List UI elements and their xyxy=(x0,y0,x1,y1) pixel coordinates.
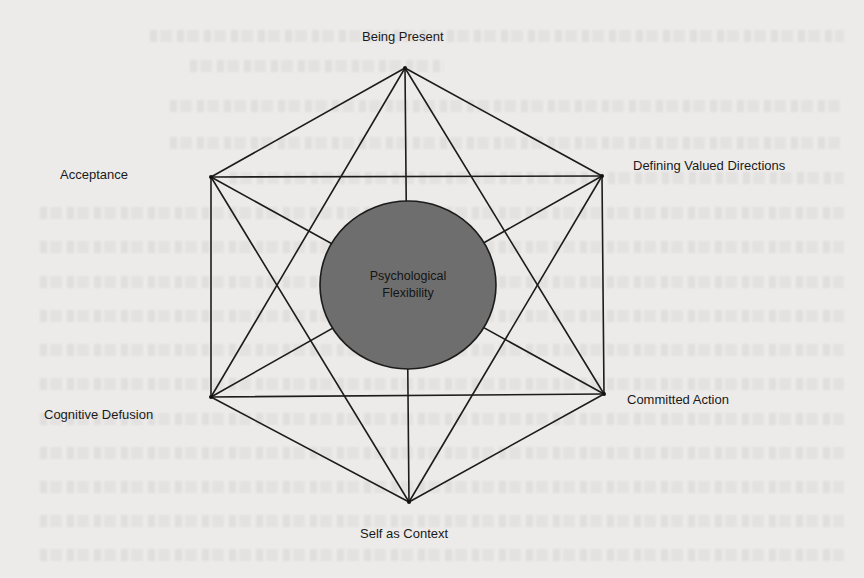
vertex-defining-valued-directions xyxy=(600,174,604,178)
edge-committed-action-self-as-context xyxy=(409,394,604,502)
vertex-committed-action xyxy=(602,392,606,396)
edge-self-as-context-cognitive-defusion xyxy=(211,397,409,502)
node-label-defining-valued-directions: Defining Valued Directions xyxy=(633,159,785,172)
vertex-being-present xyxy=(403,66,407,70)
node-label-self-as-context: Self as Context xyxy=(360,527,448,540)
center-label-line2: Flexibility xyxy=(330,285,486,302)
node-label-being-present: Being Present xyxy=(362,30,444,43)
node-label-committed-action: Committed Action xyxy=(627,393,729,406)
vertex-acceptance xyxy=(209,175,213,179)
edge-being-present-acceptance xyxy=(211,68,405,177)
node-label-acceptance: Acceptance xyxy=(60,168,128,181)
center-label: Psychological Flexibility xyxy=(330,268,486,302)
node-label-cognitive-defusion: Cognitive Defusion xyxy=(44,408,153,421)
edge-defining-valued-directions-committed-action xyxy=(602,176,604,394)
edge-being-present-defining-valued-directions xyxy=(405,68,602,176)
vertex-self-as-context xyxy=(407,500,411,504)
edge-defining-valued-directions-acceptance xyxy=(211,176,602,177)
vertex-cognitive-defusion xyxy=(209,395,213,399)
center-label-line1: Psychological xyxy=(330,268,486,285)
